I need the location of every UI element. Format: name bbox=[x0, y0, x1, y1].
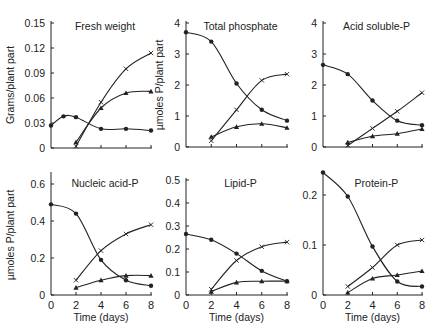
x-tick-label: 2 bbox=[345, 299, 351, 311]
triangle-marker bbox=[419, 126, 424, 131]
y-tick-label: 0.1 bbox=[165, 266, 180, 278]
cross-marker bbox=[74, 278, 78, 282]
cross-marker bbox=[395, 243, 399, 247]
circle-marker bbox=[260, 269, 264, 273]
x-tick-label: 4 bbox=[233, 299, 239, 311]
cross-marker bbox=[234, 258, 238, 262]
circle-marker bbox=[149, 284, 153, 288]
panel-total-phosphate: 01234Total phosphateµmoles P/plant part bbox=[153, 17, 290, 153]
y-tick-label: 0 bbox=[39, 289, 45, 301]
cross-marker bbox=[346, 284, 350, 288]
x-tick-label: 0 bbox=[183, 299, 189, 311]
y-axis-label: µmoles P/plant part bbox=[4, 190, 16, 281]
series-line-cross bbox=[211, 242, 287, 289]
x-tick-label: 6 bbox=[123, 299, 129, 311]
circle-marker bbox=[285, 118, 289, 122]
circle-marker bbox=[260, 108, 264, 112]
triangle-marker bbox=[345, 290, 350, 295]
y-tick-label: 0 bbox=[311, 141, 317, 153]
x-tick-label: 6 bbox=[259, 299, 265, 311]
panel-acid-soluble-p: 01234Acid soluble-P bbox=[311, 17, 424, 153]
series-line-circle bbox=[323, 173, 422, 287]
y-tick-label: 0.2 bbox=[165, 243, 180, 255]
panel-title: Acid soluble-P bbox=[343, 20, 410, 32]
x-axis-label: Time (days) bbox=[73, 311, 128, 323]
x-tick-label: 8 bbox=[284, 299, 290, 311]
x-tick-label: 6 bbox=[394, 299, 400, 311]
y-tick-label: 3 bbox=[174, 48, 180, 60]
y-tick-label: 4 bbox=[174, 17, 180, 29]
x-tick-label: 0 bbox=[48, 299, 54, 311]
panel-fresh-weight: 00.030.060.090.120.15Fresh weightGrams/p… bbox=[4, 17, 154, 154]
cross-marker bbox=[395, 109, 399, 113]
circle-marker bbox=[184, 232, 188, 236]
circle-marker bbox=[124, 278, 128, 282]
circle-marker bbox=[346, 72, 350, 76]
panel-nucleic-acid-p: 00.20.40.602468Time (days)Nucleic acid-P… bbox=[4, 172, 154, 323]
circle-marker bbox=[234, 81, 238, 85]
circle-marker bbox=[420, 284, 424, 288]
series-line-triangle bbox=[76, 275, 151, 287]
series-line-circle bbox=[51, 204, 151, 285]
figure-six-panel-chart: 00.030.060.090.120.15Fresh weightGrams/p… bbox=[0, 0, 440, 335]
cross-marker bbox=[370, 265, 374, 269]
circle-marker bbox=[346, 194, 350, 198]
cross-marker bbox=[234, 108, 238, 112]
circle-marker bbox=[74, 211, 78, 215]
circle-marker bbox=[184, 30, 188, 34]
x-tick-label: 4 bbox=[369, 299, 375, 311]
circle-marker bbox=[99, 258, 103, 262]
circle-marker bbox=[234, 251, 238, 255]
panel-title: Total phosphate bbox=[203, 20, 277, 32]
x-tick-label: 2 bbox=[208, 299, 214, 311]
y-tick-label: 0.12 bbox=[25, 42, 46, 54]
y-tick-label: 1 bbox=[311, 110, 317, 122]
y-tick-label: 0.4 bbox=[30, 215, 45, 227]
circle-marker bbox=[124, 127, 128, 131]
series-line-triangle bbox=[348, 271, 422, 293]
circle-marker bbox=[209, 238, 213, 242]
y-tick-label: 0.5 bbox=[165, 174, 180, 186]
y-tick-label: 1 bbox=[174, 110, 180, 122]
x-tick-label: 8 bbox=[148, 299, 154, 311]
panel-lipid-p: 00.10.20.30.40.502468Time (days)Lipid-P bbox=[165, 174, 290, 324]
x-tick-label: 0 bbox=[320, 299, 326, 311]
circle-marker bbox=[49, 202, 53, 206]
series-line-triangle bbox=[348, 129, 422, 142]
y-tick-label: 0.4 bbox=[165, 197, 180, 209]
circle-marker bbox=[209, 39, 213, 43]
series-line-triangle bbox=[211, 281, 287, 291]
series-line-circle bbox=[323, 65, 422, 125]
y-axis-label: µmoles P/plant part bbox=[153, 40, 165, 131]
y-tick-label: 3 bbox=[311, 48, 317, 60]
circle-marker bbox=[49, 123, 53, 127]
panel-title: Nucleic acid-P bbox=[71, 177, 138, 189]
y-tick-label: 0.3 bbox=[165, 220, 180, 232]
x-tick-label: 4 bbox=[98, 299, 104, 311]
y-tick-label: 0.2 bbox=[30, 252, 45, 264]
cross-marker bbox=[99, 248, 103, 252]
y-tick-label: 0 bbox=[311, 289, 317, 301]
y-axis-label: Grams/plant part bbox=[4, 46, 16, 124]
y-tick-label: 2 bbox=[174, 79, 180, 91]
y-tick-label: 0.09 bbox=[25, 67, 46, 79]
x-axis-label: Time (days) bbox=[345, 311, 400, 323]
cross-marker bbox=[124, 67, 128, 71]
circle-marker bbox=[61, 114, 65, 118]
x-tick-label: 8 bbox=[419, 299, 425, 311]
circle-marker bbox=[321, 170, 325, 174]
y-tick-label: 0.2 bbox=[302, 189, 317, 201]
series-line-cross bbox=[76, 53, 151, 146]
cross-marker bbox=[260, 78, 264, 82]
y-tick-label: 0.1 bbox=[302, 239, 317, 251]
circle-marker bbox=[370, 244, 374, 248]
series-line-cross bbox=[348, 93, 422, 146]
circle-marker bbox=[321, 63, 325, 67]
y-tick-label: 0.6 bbox=[30, 178, 45, 190]
panel-title: Fresh weight bbox=[75, 20, 135, 32]
y-tick-label: 0 bbox=[174, 141, 180, 153]
panel-title: Lipid-P bbox=[224, 177, 257, 189]
y-tick-label: 0.15 bbox=[25, 17, 46, 29]
circle-marker bbox=[370, 98, 374, 102]
series-line-cross bbox=[348, 240, 422, 287]
